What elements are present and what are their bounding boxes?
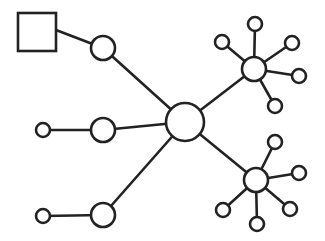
node-n-bot [91, 203, 115, 227]
node-hub-bot [244, 168, 268, 192]
network-diagram [0, 0, 325, 241]
node-ht-4 [292, 69, 306, 83]
node-hb-5 [216, 203, 230, 217]
node-n-top [91, 36, 115, 60]
node-center [166, 103, 204, 141]
node-hb-2 [292, 166, 306, 180]
node-ht-2 [248, 17, 262, 31]
node-hub-top [242, 57, 266, 81]
node-leaf-mid [36, 123, 50, 137]
node-ht-1 [215, 35, 229, 49]
node-square [18, 13, 56, 51]
node-hb-4 [250, 217, 264, 231]
node-ht-3 [285, 36, 299, 50]
node-leaf-bot [36, 209, 50, 223]
node-n-mid [91, 118, 115, 142]
node-hb-3 [283, 202, 297, 216]
node-hb-1 [268, 135, 282, 149]
node-ht-5 [268, 99, 282, 113]
